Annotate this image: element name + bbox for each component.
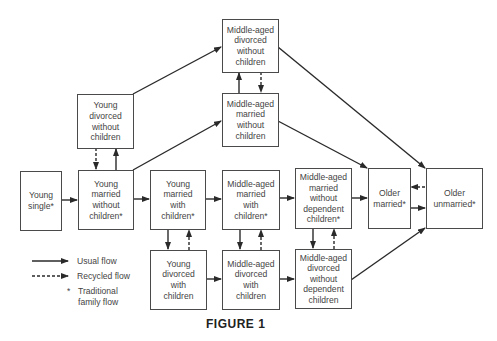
node-middle-aged-married-without-dependent-children: Middle-aged married without dependent ch…	[295, 168, 352, 229]
arrow-ym-to-mmnc	[133, 121, 221, 170]
node-older-married: Older married*	[368, 168, 411, 229]
arrow-mdnd-to-ou	[351, 228, 425, 280]
node-young-single: Young single*	[20, 171, 62, 231]
node-middle-aged-divorced-without-dependent-children: Middle-aged divorced without dependent c…	[295, 249, 352, 309]
arrow-mdnc-to-ou	[278, 47, 425, 168]
legend-traditional-marker: *	[67, 286, 70, 297]
node-young-married-with-children: Young married with children*	[150, 170, 206, 230]
node-young-married-without-children: Young married without children*	[78, 170, 134, 230]
node-middle-aged-married-without-children: Middle-aged married without children	[222, 93, 279, 147]
legend-traditional-flow-label: Traditional family flow	[78, 286, 118, 307]
legend-usual-flow-label: Usual flow	[77, 256, 117, 267]
legend-recycled-flow-label: Recycled flow	[77, 271, 130, 282]
arrow-mmnc-to-om	[278, 121, 367, 168]
node-young-divorced-with-children: Young divorced with children	[150, 250, 207, 310]
node-middle-aged-married-with-children: Middle-aged married with children*	[222, 170, 280, 230]
node-middle-aged-divorced-without-children: Middle-aged divorced without children	[222, 19, 279, 73]
arrow-ydnc-to-mdnc	[133, 47, 221, 94]
node-middle-aged-divorced-with-children: Middle-aged divorced with children	[222, 250, 280, 310]
node-young-divorced-without-children: Young divorced without children	[77, 94, 134, 149]
node-older-unmarried: Older unmarried*	[426, 168, 483, 229]
figure-caption: FIGURE 1	[206, 317, 265, 331]
